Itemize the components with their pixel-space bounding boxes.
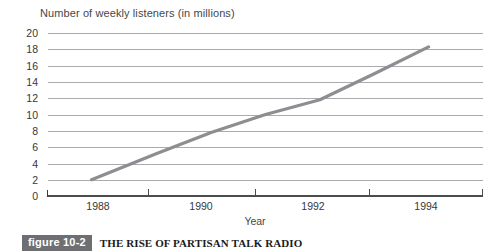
figure-caption-text: THE RISE OF PARTISAN TALK RADIO [100, 237, 302, 249]
y-axis-label-14: 14 [8, 76, 38, 88]
chart-title: Number of weekly listeners (in millions) [40, 7, 235, 19]
gridline-12 [48, 98, 483, 99]
gridline-10 [48, 115, 483, 116]
figure-caption: figure 10-2 THE RISE OF PARTISAN TALK RA… [22, 235, 302, 251]
x-axis-title: Year [225, 215, 285, 227]
x-axis-tick-1 [148, 189, 149, 196]
y-axis-label-16: 16 [8, 60, 38, 72]
y-axis-label-8: 8 [8, 125, 38, 137]
x-axis-label-1990: 1990 [171, 200, 231, 212]
gridline-6 [48, 147, 483, 148]
gridline-2 [48, 180, 483, 181]
x-axis-label-1988: 1988 [68, 200, 128, 212]
gridline-4 [48, 164, 483, 165]
y-axis-label-18: 18 [8, 43, 38, 55]
gridline-20 [48, 33, 483, 34]
x-axis-label-1992: 1992 [283, 200, 343, 212]
y-axis-label-0: 0 [8, 190, 38, 202]
x-axis-tick-2 [255, 189, 256, 196]
y-axis-label-12: 12 [8, 92, 38, 104]
y-axis-label-4: 4 [8, 158, 38, 170]
gridline-8 [48, 131, 483, 132]
gridline-16 [48, 66, 483, 67]
plot-area [48, 33, 483, 196]
y-axis-label-20: 20 [8, 27, 38, 39]
figure-number-badge: figure 10-2 [22, 235, 92, 251]
x-axis-tick-3 [369, 189, 370, 196]
x-axis-line [48, 195, 483, 197]
gridline-18 [48, 49, 483, 50]
y-axis-label-2: 2 [8, 174, 38, 186]
x-axis-label-1994: 1994 [396, 200, 456, 212]
gridline-14 [48, 82, 483, 83]
x-axis-tick-4 [482, 189, 483, 196]
y-axis-label-10: 10 [8, 109, 38, 121]
y-axis-label-6: 6 [8, 141, 38, 153]
figure-container: Number of weekly listeners (in millions)… [0, 0, 499, 252]
